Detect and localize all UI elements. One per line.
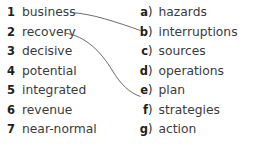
item-letter: d [137,64,148,78]
item-word: potential [22,64,77,78]
list-item[interactable]: b ) interruptions [136,22,238,42]
item-word: action [159,122,197,136]
item-letter: b [137,25,148,39]
list-item[interactable]: c ) sources [136,42,206,62]
item-number: 5 [2,83,15,97]
item-word: business [22,5,76,19]
item-word: revenue [22,103,72,117]
list-item[interactable]: a ) hazards [136,3,207,23]
list-item[interactable]: 5 integrated [0,81,86,101]
list-item[interactable]: g ) action [136,120,196,140]
item-word: integrated [22,83,86,97]
matching-exercise: 1 business 2 recovery 3 decisive 4 poten… [0,0,253,144]
list-item[interactable]: 7 near-normal [0,120,97,140]
item-word: interruptions [159,25,238,39]
item-number: 6 [2,103,15,117]
item-word: decisive [22,44,72,58]
item-word: strategies [159,103,220,117]
list-item[interactable]: 4 potential [0,61,77,81]
item-paren: ) [148,122,153,136]
item-word: operations [159,64,224,78]
list-item[interactable]: d ) operations [136,61,224,81]
item-paren: ) [148,5,153,19]
item-letter: f [137,103,148,117]
item-number: 7 [2,122,15,136]
numbered-word-list: 1 business 2 recovery 3 decisive 4 poten… [0,0,125,144]
list-item[interactable]: 3 decisive [0,42,72,62]
item-letter: a [137,5,148,19]
item-word: plan [159,83,186,97]
item-letter: e [137,83,148,97]
item-paren: ) [148,25,153,39]
item-number: 1 [2,5,15,19]
item-word: near-normal [22,122,97,136]
item-paren: ) [148,44,153,58]
list-item[interactable]: 1 business [0,3,76,23]
item-word: hazards [159,5,207,19]
list-item[interactable]: f ) strategies [136,100,220,120]
item-paren: ) [148,103,153,117]
item-number: 3 [2,44,15,58]
item-number: 2 [2,25,15,39]
item-word: sources [159,44,206,58]
item-letter: c [137,44,148,58]
item-number: 4 [2,64,15,78]
list-item[interactable]: 6 revenue [0,100,72,120]
list-item[interactable]: 2 recovery [0,22,76,42]
item-letter: g [137,122,148,136]
lettered-word-list: a ) hazards b ) interruptions c ) source… [136,0,253,144]
list-item[interactable]: e ) plan [136,81,185,101]
item-paren: ) [148,64,153,78]
item-word: recovery [22,25,76,39]
item-paren: ) [148,83,153,97]
